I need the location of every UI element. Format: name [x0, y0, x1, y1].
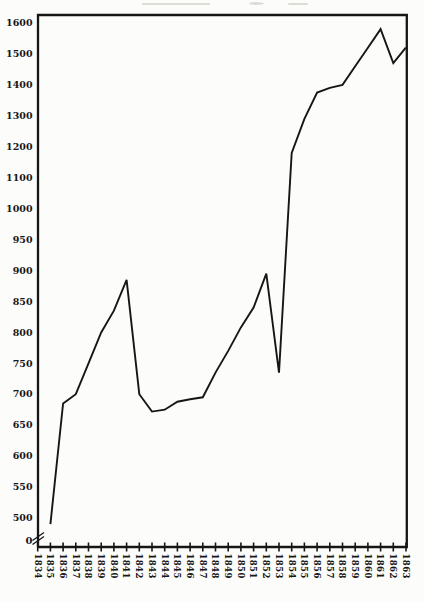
y-axis-tick-label: 1100: [6, 172, 33, 183]
x-axis-tick-label: 1834: [33, 554, 43, 579]
y-axis-tick-label: 550: [13, 481, 33, 492]
y-axis-tick-label: 1600: [6, 17, 33, 28]
x-axis-tick-label: 1861: [375, 554, 385, 579]
y-axis-tick-label: 650: [13, 419, 33, 430]
plot-frame: [38, 15, 407, 547]
x-axis-tick-label: 1855: [299, 554, 309, 579]
cropped-title-fragment: [288, 3, 308, 5]
y-axis-tick-label: 700: [13, 388, 33, 399]
line-chart: 1600150014001300120011001000950900850800…: [0, 0, 424, 602]
x-axis-tick-label: 1843: [147, 554, 157, 579]
x-axis-tick-label: 1845: [172, 554, 182, 579]
y-axis-tick-label: 750: [13, 358, 33, 369]
y-axis-tick-label: 1500: [6, 48, 33, 59]
x-axis-tick-label: 1846: [185, 554, 195, 579]
x-axis-tick-label: 1860: [363, 554, 373, 579]
x-axis-tick-label: 1838: [83, 554, 93, 579]
y-axis-tick-label: 800: [13, 327, 33, 338]
x-axis-tick-label: 1851: [248, 554, 258, 579]
x-axis-tick-label: 1842: [134, 554, 144, 579]
x-axis-tick-label: 1863: [401, 554, 411, 579]
x-axis-tick-label: 1856: [312, 554, 322, 579]
y-axis-tick-label: 600: [13, 450, 33, 461]
x-axis-tick-label: 1862: [388, 554, 398, 579]
y-axis-tick-label: 500: [13, 512, 33, 523]
y-axis-tick-label: 1200: [6, 141, 33, 152]
cropped-title-fragment: [142, 3, 210, 5]
y-axis-tick-label: 1000: [6, 203, 33, 214]
x-axis-tick-label: 1844: [160, 554, 170, 579]
x-axis-tick-label: 1859: [350, 554, 360, 579]
x-axis-tick-label: 1857: [325, 554, 335, 579]
x-axis-tick-label: 1837: [71, 554, 81, 579]
x-axis-tick-label: 1850: [236, 554, 246, 579]
cropped-title-fragment: [249, 2, 264, 5]
x-axis-tick-label: 1848: [210, 554, 220, 579]
x-axis-tick-label: 1852: [261, 554, 271, 579]
y-axis-zero-label: 0: [26, 535, 33, 546]
x-axis-tick-label: 1836: [58, 554, 68, 579]
scanned-chart-page: 1600150014001300120011001000950900850800…: [0, 0, 424, 602]
y-axis-tick-label: 900: [13, 265, 33, 276]
x-axis-tick-label: 1858: [337, 554, 347, 579]
x-axis-tick-label: 1854: [287, 554, 297, 579]
x-axis-tick-label: 1847: [198, 554, 208, 579]
data-line-series: [50, 29, 405, 524]
y-axis-tick-label: 1400: [6, 79, 33, 90]
x-axis-tick-label: 1839: [96, 554, 106, 579]
y-axis-tick-label: 950: [13, 234, 33, 245]
x-axis-tick-label: 1849: [223, 554, 233, 579]
x-axis-tick-label: 1840: [109, 554, 119, 579]
y-axis-tick-label: 1300: [6, 110, 33, 121]
x-axis-tick-label: 1841: [121, 554, 131, 579]
x-axis-tick-label: 1853: [274, 554, 284, 579]
y-axis-tick-label: 850: [13, 296, 33, 307]
x-axis-tick-label: 1835: [45, 554, 55, 579]
